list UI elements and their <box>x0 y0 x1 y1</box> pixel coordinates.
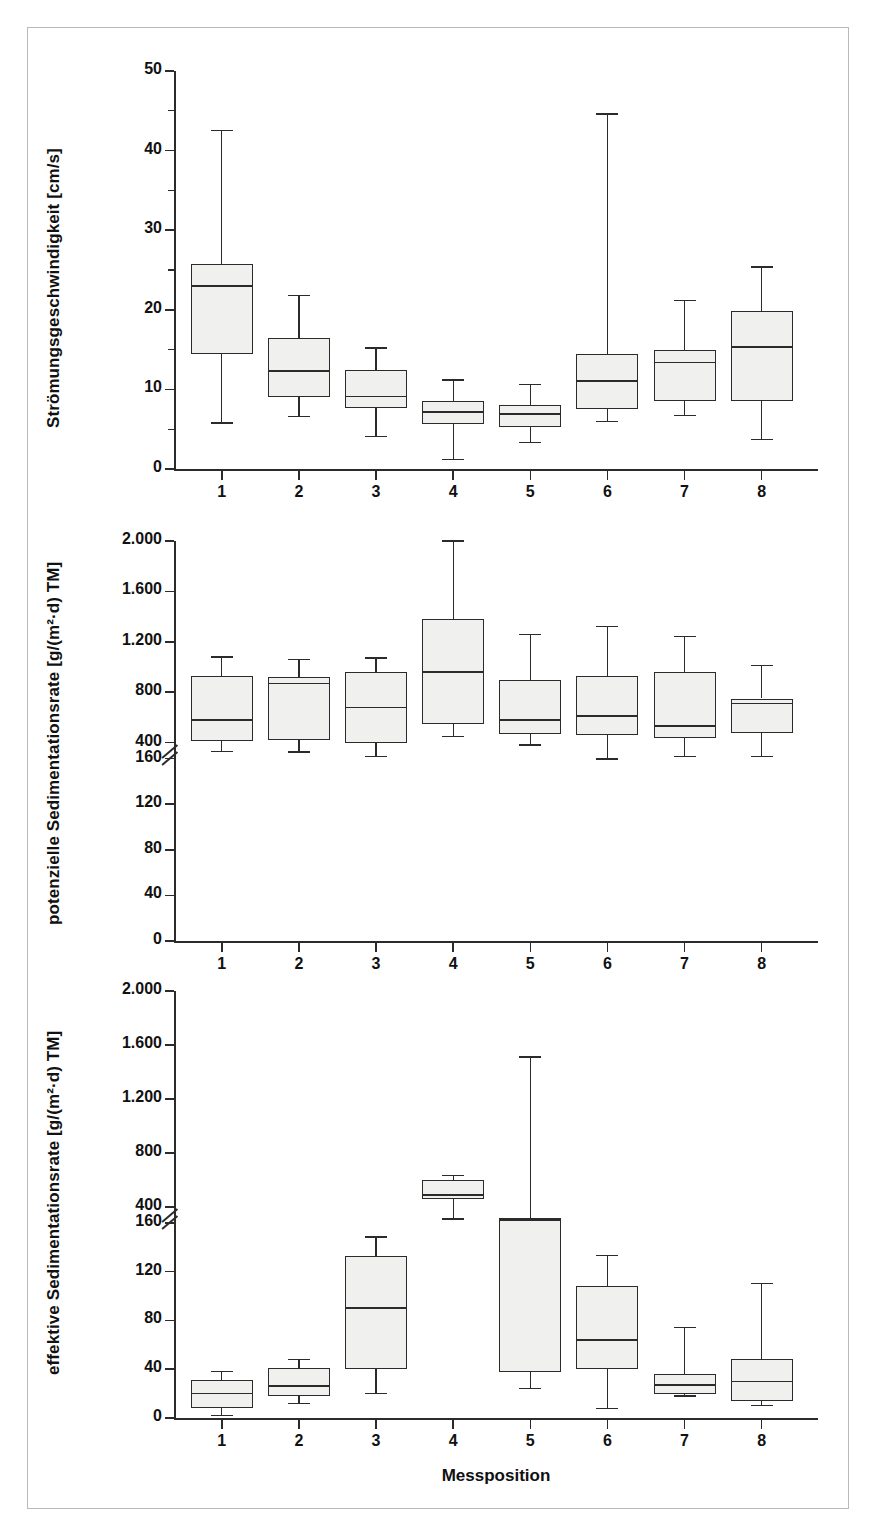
panel3-y-tick <box>165 1152 174 1154</box>
panel3-y-tick <box>165 1271 174 1273</box>
box-plot-box <box>499 1218 561 1372</box>
box-whisker-upper <box>530 1057 531 1217</box>
panel3-x-tick <box>607 1420 609 1429</box>
box-whisker-upper <box>684 1328 685 1374</box>
panel3-x-tick <box>375 1420 377 1429</box>
box-median-line <box>345 1307 407 1309</box>
box-median-line <box>499 1219 561 1221</box>
box-whisker-cap-lower <box>288 1403 310 1404</box>
panel3-y-tick-label: 1.600 <box>70 1034 162 1052</box>
box-whisker-upper <box>607 1256 608 1287</box>
panel3-x-tick <box>298 1420 300 1429</box>
x-axis-title: Messposition <box>174 1466 818 1486</box>
box-whisker-upper <box>761 1284 762 1360</box>
panel3-x-tick-label: 2 <box>277 1432 321 1450</box>
box-whisker-cap-lower <box>365 1393 387 1394</box>
panel-effektive-sedimentationsrate: effektive Sedimentationsrate [g/(m²·d) T… <box>28 28 850 1510</box>
box-median-line <box>268 1385 330 1387</box>
panel3-y-tick-label: 2.000 <box>70 980 162 998</box>
box-median-line <box>576 1339 638 1341</box>
box-median-line <box>731 1381 793 1383</box>
panel3-x-tick-label: 7 <box>663 1432 707 1450</box>
panel3-y-tick <box>165 1098 174 1100</box>
panel3-y-tick <box>165 1417 174 1419</box>
figure-page: Strömungsgeschwindigkeit [cm/s] 01020304… <box>0 0 877 1537</box>
panel3-y-tick <box>165 1044 174 1046</box>
box-plot-box <box>268 1368 330 1396</box>
box-median-line <box>422 1194 484 1196</box>
box-whisker-cap-lower <box>596 1408 618 1409</box>
box-whisker-upper <box>375 1237 376 1256</box>
box-whisker-cap-lower <box>751 1405 773 1406</box>
panel3-x-tick-label: 6 <box>585 1432 629 1450</box>
panel3-x-tick-label: 3 <box>354 1432 398 1450</box>
panel3-plot-area: 040801201604008001.2001.6002.00012345678 <box>28 28 850 1510</box>
panel3-y-tick <box>165 1368 174 1370</box>
box-whisker-cap-lower <box>519 1388 541 1389</box>
panel3-y-tick-label: 400 <box>70 1196 162 1214</box>
box-whisker-cap-upper <box>288 1359 310 1360</box>
panel3-y-tick-label: 800 <box>70 1142 162 1160</box>
panel3-axis-break-icon <box>162 1205 188 1227</box>
panel3-x-tick <box>530 1420 532 1429</box>
box-whisker-cap-upper <box>211 1371 233 1372</box>
panel3-y-tick-label: 0 <box>70 1407 162 1425</box>
panel3-y-tick-label: 40 <box>70 1358 162 1376</box>
box-whisker-cap-lower <box>674 1395 696 1396</box>
box-whisker-cap-upper <box>596 1255 618 1256</box>
panel3-x-tick-label: 4 <box>431 1432 475 1450</box>
box-plot-box <box>422 1180 484 1199</box>
box-plot-box <box>576 1286 638 1369</box>
box-whisker-cap-upper <box>674 1327 696 1328</box>
box-whisker-cap-upper <box>365 1236 387 1237</box>
panel3-y-tick <box>165 1320 174 1322</box>
box-whisker-lower <box>375 1369 376 1393</box>
panel3-x-tick <box>761 1420 763 1429</box>
panel3-y-tick <box>165 990 174 992</box>
box-whisker-upper <box>298 1359 299 1368</box>
panel3-x-tick <box>452 1420 454 1429</box>
panel3-y-tick-label: 160 <box>70 1212 162 1230</box>
box-whisker-cap-upper <box>519 1056 541 1057</box>
box-whisker-upper <box>221 1372 222 1381</box>
panel3-y-tick-label: 80 <box>70 1309 162 1327</box>
panel3-y-tick-label: 120 <box>70 1261 162 1279</box>
box-median-line <box>654 1384 716 1386</box>
panel3-x-tick-label: 1 <box>200 1432 244 1450</box>
box-whisker-cap-upper <box>751 1283 773 1284</box>
panel3-x-axis-line <box>174 1418 818 1420</box>
panel3-x-tick-label: 5 <box>508 1432 552 1450</box>
figure-frame: Strömungsgeschwindigkeit [cm/s] 01020304… <box>27 27 849 1509</box>
box-whisker-lower <box>530 1372 531 1389</box>
box-whisker-cap-lower <box>211 1415 233 1416</box>
panel3-x-tick <box>684 1420 686 1429</box>
box-plot-box <box>345 1256 407 1369</box>
box-whisker-cap-upper <box>442 1175 464 1176</box>
box-median-line <box>191 1393 253 1395</box>
panel3-x-tick-label: 8 <box>740 1432 784 1450</box>
panel3-x-tick <box>221 1420 223 1429</box>
box-whisker-cap-lower <box>442 1218 464 1219</box>
box-whisker-lower <box>607 1369 608 1408</box>
panel3-y-tick-label: 1.200 <box>70 1088 162 1106</box>
box-whisker-lower <box>453 1199 454 1219</box>
